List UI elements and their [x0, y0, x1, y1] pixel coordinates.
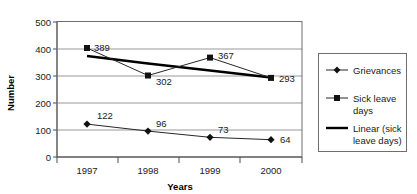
data-point-label: 73 [218, 124, 229, 135]
x-tick-label: 1997 [76, 165, 97, 176]
y-axis [53, 21, 57, 157]
y-tick-label: 100 [35, 125, 51, 136]
y-tick-label: 400 [35, 44, 51, 55]
x-axis [57, 157, 302, 163]
line-chart: Number 500 400 300 200 100 0 [0, 0, 417, 194]
legend-item-label: Linear (sick [353, 123, 402, 134]
data-point-label: 389 [94, 42, 110, 53]
y-tick-label: 0 [46, 152, 51, 163]
legend-item-label-line2: leave days) [353, 135, 402, 146]
data-point-marker [268, 75, 274, 81]
chart-figure: Number 500 400 300 200 100 0 [0, 0, 417, 194]
gridlines [57, 49, 302, 130]
y-axis-tick-labels: 500 400 300 200 100 0 [35, 17, 51, 163]
data-point-label: 64 [280, 134, 291, 145]
legend-item-label: Sick leave [353, 93, 396, 104]
legend-item-label-line2: days [353, 105, 373, 116]
data-point-marker [144, 128, 151, 135]
series-grievances: 122 96 73 64 [83, 110, 290, 145]
data-point-label: 367 [218, 50, 234, 61]
legend-item-label: Grievances [353, 65, 401, 76]
data-point-marker [83, 121, 90, 128]
data-point-marker [206, 134, 213, 141]
data-point-label: 302 [156, 76, 172, 87]
chart-legend: Grievances Sick leave days Linear (sick … [319, 54, 407, 152]
x-tick-label: 2000 [260, 165, 281, 176]
data-point-label: 122 [97, 110, 113, 121]
x-axis-tick-labels: 1997 1998 1999 2000 [76, 165, 281, 176]
y-tick-label: 500 [35, 17, 51, 28]
data-point-marker [84, 45, 90, 51]
y-tick-label: 300 [35, 71, 51, 82]
data-point-marker [145, 73, 151, 79]
x-axis-title: Years [167, 181, 192, 192]
x-tick-label: 1998 [137, 165, 158, 176]
square-marker-icon [334, 95, 340, 101]
y-tick-label: 200 [35, 98, 51, 109]
x-tick-label: 1999 [199, 165, 220, 176]
data-point-marker [207, 55, 213, 61]
data-point-marker [267, 136, 274, 143]
data-point-label: 96 [156, 118, 167, 129]
data-point-label: 293 [279, 73, 295, 84]
y-axis-title: Number [5, 75, 16, 111]
